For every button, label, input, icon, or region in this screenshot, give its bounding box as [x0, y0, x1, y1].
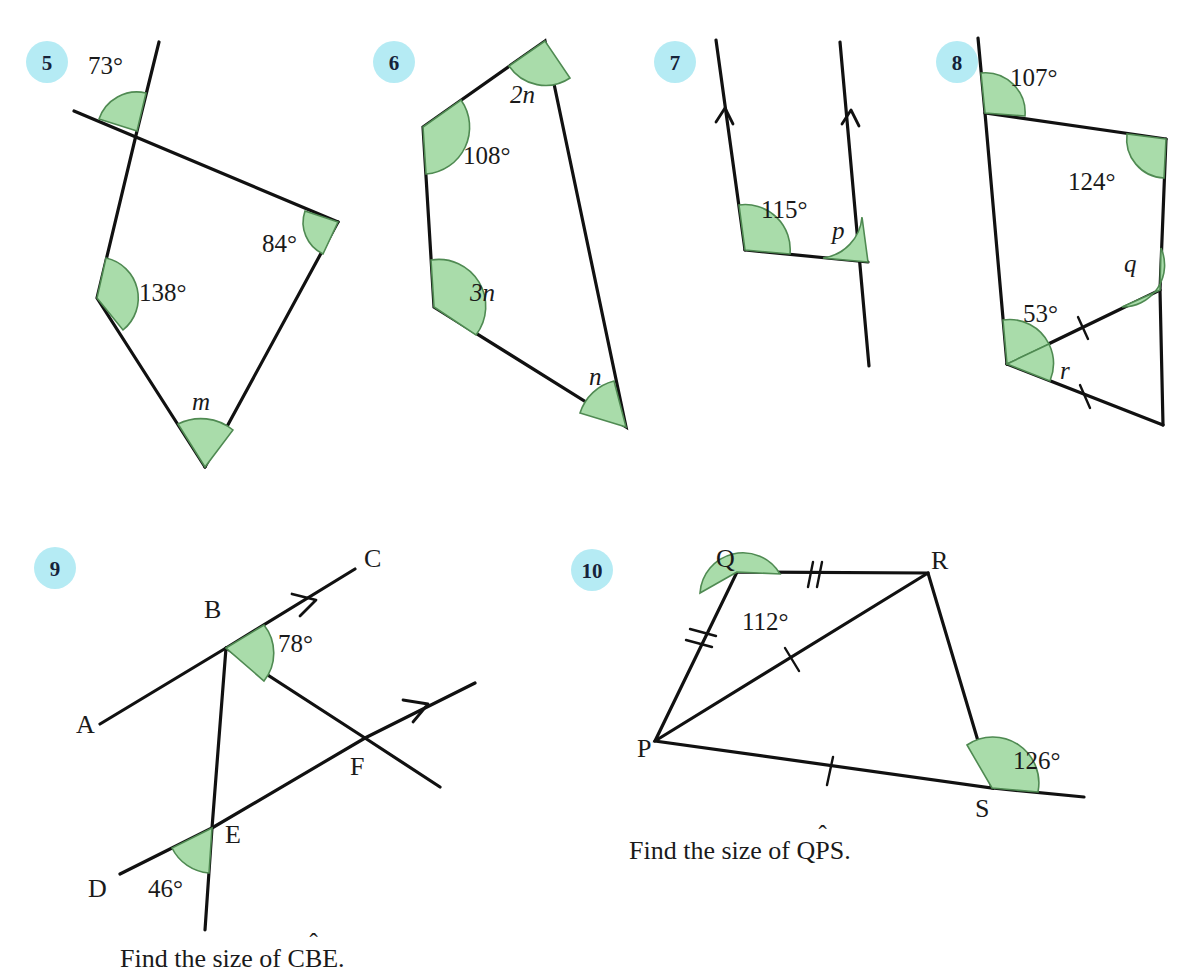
q5-label-73: 73° [88, 52, 123, 79]
badge-number-5: 5 [42, 51, 53, 75]
caption-10-hat-letter-wrap: ˆP [815, 836, 829, 866]
q6-label-2n: 2n [510, 81, 535, 108]
q6-label-n: n [589, 363, 602, 390]
q10-tick-PQ-b [690, 629, 716, 636]
figure-5: 5 73° 84° 138° m [26, 41, 338, 467]
q7-label-115: 115° [761, 196, 808, 223]
q10-label-P: P [637, 734, 651, 763]
q9-label-A: A [76, 710, 95, 739]
q10-tick-QR-b [817, 562, 822, 587]
q7-angle-arc-p [823, 217, 868, 262]
question-10-caption: Find the size of QˆPS. [629, 836, 851, 866]
q6-label-108: 108° [463, 142, 511, 169]
caption-9-suffix: E. [322, 944, 344, 971]
q9-label-E: E [225, 820, 241, 849]
q6-angle-arc-2n [509, 41, 570, 85]
figure-10: 10 P Q R S 112° 126° [571, 544, 1084, 823]
q9-angle-arc-78 [226, 625, 274, 681]
badge-number-8: 8 [952, 51, 963, 75]
q5-label-138: 138° [139, 279, 187, 306]
q6-label-3n: 3n [469, 279, 495, 306]
q8-label-q: q [1124, 250, 1137, 277]
badge-number-7: 7 [670, 51, 681, 75]
q5-label-m: m [192, 388, 210, 415]
badge-number-6: 6 [389, 51, 400, 75]
q9-transversal-BE [205, 648, 226, 930]
q9-label-C: C [364, 544, 381, 573]
q5-angle-arc-m [178, 419, 233, 467]
circumflex-icon: ˆ [818, 823, 826, 848]
q10-label-Q: Q [716, 544, 735, 573]
question-9-caption: Find the size of CˆBE. [120, 944, 345, 971]
q8-label-r: r [1060, 357, 1070, 384]
q9-label-78: 78° [278, 630, 313, 657]
q7-parallel-line-right [840, 42, 869, 366]
q10-label-126: 126° [1013, 747, 1061, 774]
q5-angle-arc-138 [97, 258, 138, 330]
q5-label-84: 84° [262, 230, 297, 257]
q10-tick-PS [827, 757, 833, 785]
caption-10-suffix: S. [830, 836, 851, 865]
badge-number-10: 10 [582, 559, 603, 583]
q9-label-B: B [204, 595, 221, 624]
q9-angle-arc-46 [172, 828, 212, 873]
q9-label-46: 46° [148, 875, 183, 902]
q9-label-D: D [88, 874, 107, 903]
q7-label-p: p [830, 217, 845, 244]
q10-tick-PQ-a [686, 640, 712, 647]
figure-6: 6 2n 108° 3n n [373, 41, 626, 427]
q8-label-53: 53° [1023, 300, 1058, 327]
badge-number-9: 9 [50, 557, 61, 581]
q8-angle-arc-124 [1127, 134, 1166, 178]
caption-10-prefix: Find the size of Q [629, 836, 815, 865]
q10-quadrilateral [655, 572, 992, 788]
q10-label-112: 112° [742, 608, 789, 635]
caption-9-prefix: Find the size of C [120, 944, 305, 971]
q7-arrowhead-right-icon [842, 110, 859, 126]
q9-label-F: F [350, 752, 364, 781]
q8-label-124: 124° [1068, 168, 1116, 195]
q10-tick-QR-a [808, 562, 813, 587]
figure-8: 8 107° 124° [936, 38, 1166, 425]
q7-arrowhead-left-icon [716, 108, 733, 124]
figure-9: 9 A B C D E F 78° 46° [34, 544, 475, 930]
q5-angle-arc-84 [303, 211, 338, 254]
q10-label-R: R [931, 546, 949, 575]
q5-top-edge [74, 111, 338, 222]
caption-9-hat-letter-wrap: ˆB [305, 944, 322, 971]
q10-angle-arc-112 [700, 553, 780, 593]
q8-label-107: 107° [1010, 64, 1058, 91]
circumflex-icon: ˆ [309, 931, 317, 956]
figure-7: 7 115° p [654, 40, 869, 366]
q10-label-S: S [975, 794, 989, 823]
